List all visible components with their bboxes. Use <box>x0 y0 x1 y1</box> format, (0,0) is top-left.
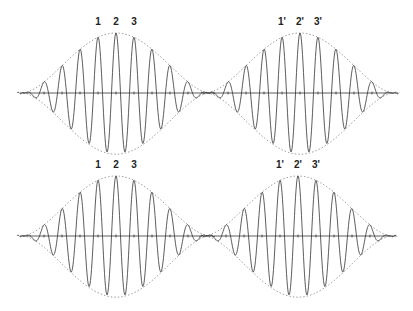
peak-label: 2 <box>113 159 119 170</box>
row-bottom: 1231'2'3' <box>17 159 397 297</box>
row-top: 1231'2'3' <box>17 16 399 154</box>
lower-envelope <box>23 236 209 297</box>
lower-envelope <box>207 93 393 154</box>
peak-label: 2' <box>294 159 302 170</box>
wave-packet-top-1: 123 <box>17 16 215 154</box>
plot-area: 1231'2'3'1231'2'3' <box>17 16 399 297</box>
lower-envelope <box>205 236 391 297</box>
peak-label: 1 <box>95 16 101 27</box>
peak-label: 3' <box>314 16 322 27</box>
upper-envelope <box>205 176 391 236</box>
peak-label: 3 <box>131 159 137 170</box>
upper-envelope <box>23 176 209 236</box>
peak-label: 1 <box>95 159 101 170</box>
peak-label: 2 <box>113 16 119 27</box>
peak-label: 3 <box>131 16 137 27</box>
peak-label: 2' <box>296 16 304 27</box>
wave-packet-bottom-1: 123 <box>17 159 215 297</box>
peak-label: 1' <box>278 16 286 27</box>
upper-envelope <box>207 33 393 93</box>
wave-packet-bottom-2: 1'2'3' <box>199 159 397 297</box>
upper-envelope <box>23 33 209 93</box>
peak-label: 1' <box>276 159 284 170</box>
peak-label: 3' <box>312 159 320 170</box>
wave-packet-diagram: 1231'2'3'1231'2'3' <box>0 0 413 311</box>
wave-packet-top-2: 1'2'3' <box>201 16 399 154</box>
lower-envelope <box>23 93 209 154</box>
